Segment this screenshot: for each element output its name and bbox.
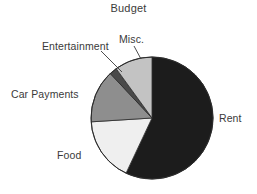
pie-label-car-payments: Car Payments [11,88,79,100]
entertainment-leader-line [101,51,122,72]
pie-label-food: Food [57,149,81,161]
chart-canvas: Budget Rent Food Car Payments Entertainm… [0,0,257,194]
pie-label-misc: Misc. [119,33,144,45]
pie-slice-group [91,57,213,179]
misc-leader-line [134,46,141,59]
pie-label-entertainment: Entertainment [42,40,109,52]
pie-label-rent: Rent [219,112,242,124]
